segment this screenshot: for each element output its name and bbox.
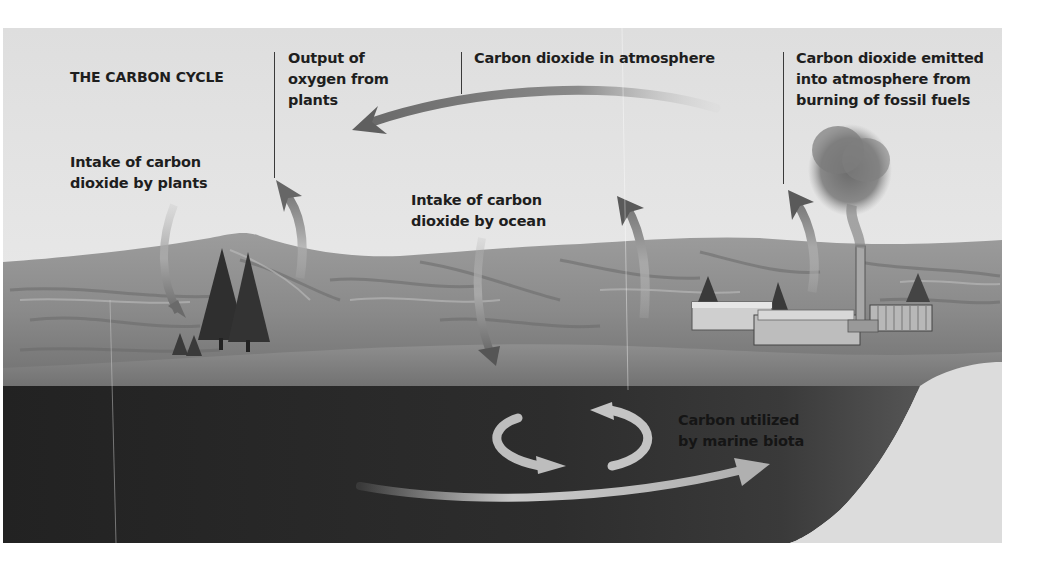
- label-co2-emitted: Carbon dioxide emitted into atmosphere f…: [796, 48, 984, 111]
- carbon-cycle-diagram: THE CARBON CYCLE Output of oxygen from p…: [0, 0, 1061, 574]
- diagram-title: THE CARBON CYCLE: [70, 67, 224, 88]
- label-output-oxygen: Output of oxygen from plants: [288, 48, 389, 111]
- leader-line-oxygen: [274, 52, 275, 178]
- leader-line-emission: [783, 52, 784, 184]
- leader-line-atmosphere: [461, 52, 462, 94]
- label-intake-ocean: Intake of carbon dioxide by ocean: [411, 190, 546, 232]
- label-marine-biota: Carbon utilized by marine biota: [678, 410, 804, 452]
- label-intake-plants: Intake of carbon dioxide by plants: [70, 152, 207, 194]
- label-co2-atmosphere: Carbon dioxide in atmosphere: [474, 48, 715, 69]
